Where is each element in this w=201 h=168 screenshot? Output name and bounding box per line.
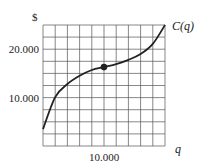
cost-function-chart: $ q C(q) 10.00020.000 10.000 [0,0,201,168]
y-tick-labels: 10.00020.000 [9,43,40,103]
inflection-point-marker [101,64,108,71]
x-tick-labels: 10.000 [89,151,120,163]
x-tick-label: 10.000 [89,151,120,163]
curve-label: C(q) [172,19,194,33]
y-tick-label: 10.000 [9,92,40,104]
y-tick-label: 20.000 [9,43,40,55]
grid [43,25,165,146]
y-axis-label: $ [32,11,38,23]
x-axis-label: q [175,142,181,156]
